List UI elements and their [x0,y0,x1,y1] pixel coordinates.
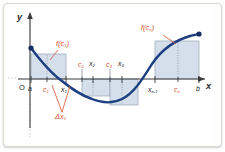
riemann-sum-svg [0,0,225,152]
tick-label-c1-sub: 1 [47,89,49,94]
left-endpoint-dot [28,45,33,50]
rect-2 [82,79,110,96]
tick-label-b-main: b [196,85,200,92]
tick-label-x1: x1 [61,86,67,93]
tick-label-x2-sub: 2 [93,63,95,68]
tick-label-x3-sub: 3 [122,63,124,68]
tick-label-c3: c3 [106,61,112,68]
origin-label: O [19,84,25,92]
callout-f-cn-sub: n [149,27,151,32]
rect-n [155,41,199,79]
tick-label-c1: c1 [43,86,49,93]
callout-f-c1: f(c1) [56,40,69,48]
tick-label-x1-sub: 1 [65,89,67,94]
label-delta-x1-main: Δx [55,112,64,121]
tick-label-xn-1-sub: n-1 [152,89,158,94]
tick-label-a-main: a [28,85,32,92]
tick-label-c1-main: c [43,86,47,93]
tick-label-x3: x3 [118,60,124,67]
callout-f-c1-tail: ) [67,39,70,48]
y-axis-arrowhead [27,12,33,19]
callout-f-cn-tail: ) [152,23,155,32]
callout-f-c1-sub: 1 [64,43,66,48]
tick-label-c3-sub: 3 [110,64,112,69]
tick-label-cn-sub: n [178,89,180,94]
tick-label-cn-main: c [174,86,178,93]
label-delta-x1: Δx1 [55,113,66,121]
tick-label-xn-1-main: x [148,86,152,93]
x-axis-label: x [206,82,211,91]
tick-label-c3-main: c [106,61,110,68]
tick-label-a: a [28,85,32,92]
label-delta-x1-sub: 1 [64,116,66,121]
tick-label-xn-1: xn-1 [148,86,158,93]
tick-label-x3-main: x [118,60,122,67]
tick-label-b: b [196,85,200,92]
tick-label-x2-main: x [89,60,93,67]
callout-f-cn: f(cn) [141,24,154,32]
y-axis-label: y [17,13,22,22]
tick-label-c2-sub: 2 [82,64,84,69]
tick-label-c2: c2 [78,61,84,68]
right-endpoint-dot [196,31,201,36]
rect-1 [31,54,66,79]
left-dashed-guides [8,16,30,137]
mid-label-leaders [82,69,110,79]
tick-label-c2-main: c [78,61,82,68]
riemann-sum-figure: y x O f(c1) f(cn) a c1 x1 c2 x2 c3 x3 xn… [0,0,225,152]
tick-label-cn: cn [174,86,180,93]
tick-label-x1-main: x [61,86,65,93]
tick-label-x2: x2 [89,60,95,67]
